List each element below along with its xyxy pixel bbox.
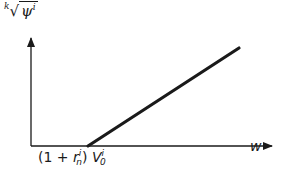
payoff-line: [88, 48, 239, 146]
intercept-prefix: (1 +: [38, 149, 73, 165]
v-sub: 0: [100, 157, 106, 167]
y-axis-label: k√ψi: [4, 2, 38, 20]
psi-superscript: i: [33, 2, 36, 12]
psi-symbol: ψ: [21, 2, 33, 20]
root-index: k: [4, 1, 9, 11]
x-intercept-label: (1 + rin) Vi0: [38, 148, 106, 167]
radical-icon: √: [9, 2, 19, 20]
x-axis-label: w: [250, 138, 261, 154]
close-paren: ): [82, 149, 87, 165]
